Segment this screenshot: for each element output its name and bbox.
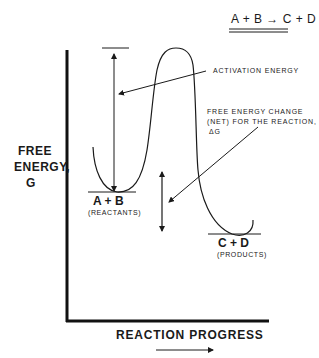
products-formula: C + D	[218, 236, 249, 250]
reactants-formula: A + B	[93, 194, 124, 208]
products-label: (PRODUCTS)	[217, 251, 267, 258]
free-energy-change-line1: FREE ENERGY CHANGE	[207, 107, 317, 117]
y-axis-label-line3: G	[14, 175, 70, 191]
free-energy-change-label: FREE ENERGY CHANGE (NET) FOR THE REACTIO…	[207, 107, 317, 137]
activation-energy-leader	[119, 71, 206, 94]
free-energy-change-line3: ΔG	[207, 127, 317, 137]
free-energy-change-line2: (NET) FOR THE REACTION,	[207, 117, 317, 127]
y-axis-label-line1: FREE	[14, 143, 70, 159]
x-axis-label: REACTION PROGRESS	[116, 328, 264, 342]
reactants-label: (REACTANTS)	[88, 209, 141, 216]
equation-underline	[229, 29, 288, 32]
delta-g-leader	[169, 127, 258, 202]
y-axis-label: FREE ENERGY, G	[14, 143, 70, 191]
y-axis-label-line2: ENERGY,	[14, 159, 70, 175]
activation-energy-label: ACTIVATION ENERGY	[213, 67, 299, 74]
reaction-equation: A + B → C + D	[231, 12, 316, 26]
